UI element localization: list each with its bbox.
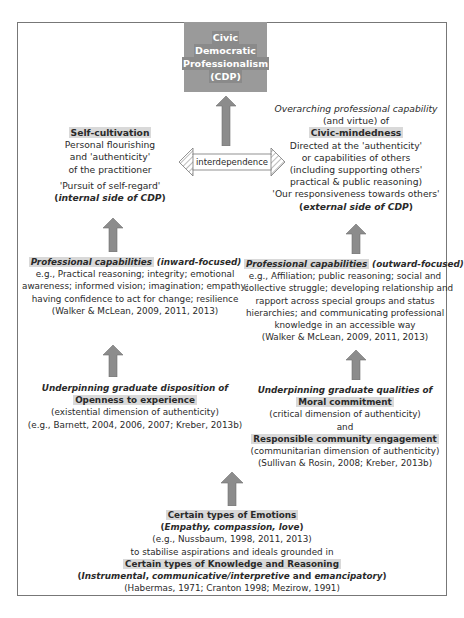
text-line: of the practitioner (40, 164, 180, 176)
up-arrow-icon (346, 224, 366, 254)
cdp-title-line: Professionalism (182, 57, 269, 70)
text-line: to stabilise aspirations and ideals grou… (30, 546, 434, 558)
emotions-list: (Empathy, compassion, love) (30, 521, 434, 533)
text-line: and 'authenticity' (40, 151, 180, 163)
cdp-title-line: Civic (212, 31, 239, 44)
cdp-box: Civic Democratic Professionalism (CDP) (184, 22, 267, 92)
up-arrow-icon (103, 345, 123, 377)
self-cultivation-heading: Self-cultivation (69, 127, 152, 138)
text-line: or capabilities of others (268, 152, 444, 164)
text-line: (existential dimension of authenticity) (22, 406, 248, 418)
cdp-title-line: Democratic (194, 44, 257, 57)
text-line: (including supporting others' (268, 164, 444, 176)
inward-capabilities-heading: Professional capabilities (29, 257, 154, 267)
text-line: (and virtue) of (268, 115, 444, 127)
text-line: awareness; informed vision; imagination;… (22, 280, 248, 292)
openness-block: Underpinning graduate disposition of Ope… (22, 382, 248, 431)
text-line: Overarching professional capability (268, 103, 444, 115)
outward-capabilities-heading: Professional capabilities (244, 259, 369, 269)
text-line: e.g., Practical reasoning; integrity; em… (22, 268, 248, 280)
up-arrow-icon (216, 96, 236, 146)
knowledge-heading: Certain types of Knowledge and Reasoning (123, 559, 341, 569)
external-side-label: (external side of CDP) (268, 201, 444, 213)
text-line: and (244, 421, 446, 433)
inward-capabilities-block: Professional capabilities (inward-focuse… (22, 256, 248, 317)
text-line: e.g., Affiliation; public reasoning; soc… (244, 270, 446, 282)
up-arrow-icon (103, 218, 123, 252)
knowledge-types: (Instrumental, communicative/interpretiv… (30, 570, 434, 582)
up-arrow-icon (221, 472, 243, 506)
internal-side-label: (internal side of CDP) (40, 192, 180, 204)
emotions-heading: Certain types of Emotions (166, 510, 299, 520)
text-line: Personal flourishing (40, 139, 180, 151)
up-arrow-icon (346, 350, 366, 380)
text-line: (communitarian dimension of authenticity… (244, 445, 446, 457)
cdp-title-line: (CDP) (209, 70, 242, 83)
text-line: Underpinning graduate qualities of (244, 384, 446, 396)
text-line: (critical dimension of authenticity) (244, 408, 446, 420)
citation: (Walker & McLean, 2009, 2011, 2013) (22, 305, 248, 317)
citation: (Sullivan & Rosin, 2008; Kreber, 2013b) (244, 457, 446, 469)
citation: (Walker & McLean, 2009, 2011, 2013) (244, 331, 446, 343)
outward-capabilities-block: Professional capabilities (outward-focus… (244, 258, 446, 343)
text-line: knowledge in an accessible way (244, 319, 446, 331)
openness-heading: Openness to experience (73, 395, 197, 405)
interdependence-label: interdependence (193, 156, 271, 168)
text-line: Underpinning graduate disposition of (22, 382, 248, 394)
emotions-knowledge-block: Certain types of Emotions (Empathy, comp… (30, 509, 434, 594)
text-line: practical & public reasoning) (268, 176, 444, 188)
text-line: 'Our responsiveness towards others' (268, 188, 444, 200)
self-cultivation-block: Self-cultivation Personal flourishing an… (40, 127, 180, 204)
citation: (e.g., Nussbaum, 1998, 2011, 2013) (30, 533, 434, 545)
citation: (e.g., Barnett, 2004, 2006, 2007; Kreber… (22, 419, 248, 431)
civic-mindedness-heading: Civic-mindedness (309, 127, 404, 138)
text-line: Directed at the 'authenticity' (268, 140, 444, 152)
moral-commitment-block: Underpinning graduate qualities of Moral… (244, 384, 446, 469)
citation: (Habermas, 1971; Cranton 1998; Mezirow, … (30, 582, 434, 594)
civic-mindedness-block: Overarching professional capability (and… (268, 103, 444, 213)
text-line: collective struggle; developing relation… (244, 282, 446, 294)
community-engagement-heading: Responsible community engagement (251, 434, 439, 444)
moral-commitment-heading: Moral commitment (296, 397, 394, 407)
text-line: having confidence to act for change; res… (22, 293, 248, 305)
text-line: hierarchies; and communicating professio… (244, 307, 446, 319)
text-line: rapport across special groups and status (244, 295, 446, 307)
text-line: 'Pursuit of self-regard' (40, 180, 180, 192)
